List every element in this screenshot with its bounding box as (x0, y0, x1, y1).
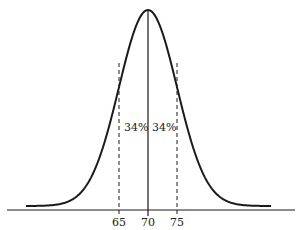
tick-label-75: 75 (170, 216, 184, 229)
region-label-left: 34% (124, 121, 148, 134)
region-label-right: 34% (152, 121, 176, 134)
tick-label-70: 70 (141, 216, 155, 229)
normal-curve-figure: 34% 34% 65 70 75 (0, 0, 301, 230)
tick-label-65: 65 (112, 216, 126, 229)
